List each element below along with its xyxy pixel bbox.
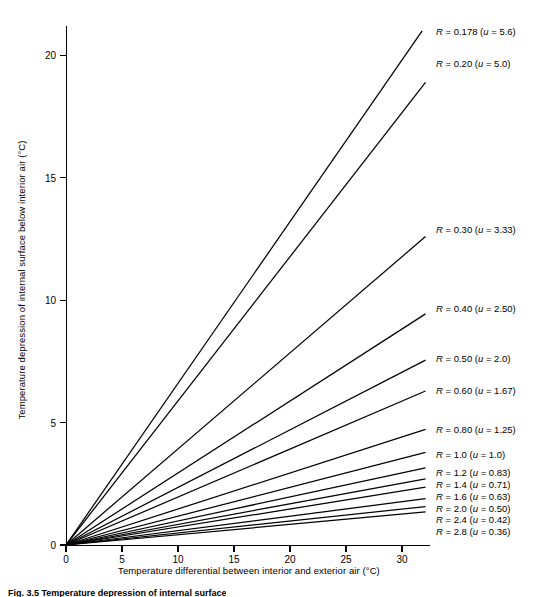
series-line [66,487,426,545]
figure-caption: Fig. 3.5 Temperature depression of inter… [8,588,226,597]
series-label: R = 2.0 (u = 0.50) [436,503,511,514]
series-label: R = 1.6 (u = 0.63) [436,491,511,502]
y-tick-label: 5 [50,417,56,428]
plot-area: 05101520 051015202530 [66,26,430,545]
series-label: R = 0.80 (u = 1.25) [436,424,516,435]
x-tick-mark [345,546,346,552]
x-tick-label: 0 [63,554,69,565]
x-tick-label: 25 [340,554,351,565]
series-label: R = 0.60 (u = 1.67) [436,385,516,396]
x-tick-mark [233,546,234,552]
series-lines [66,26,430,545]
series-line [66,314,426,545]
series-line [66,82,426,545]
series-label: R = 0.178 (u = 5.6) [436,26,516,37]
y-tick-label: 10 [45,295,56,306]
y-axis-title: Temperature depression of internal surfa… [16,20,27,540]
x-tick-mark [289,546,290,552]
series-line [66,31,422,545]
series-label: R = 0.20 (u = 5.0) [436,58,511,69]
series-label: R = 0.40 (u = 2.50) [436,303,516,314]
series-label: R = 0.50 (u = 2.0) [436,353,511,364]
x-tick-label: 5 [119,554,125,565]
series-label: R = 1.0 (u = 1.0) [436,449,505,460]
series-label: R = 0.30 (u = 3.33) [436,224,516,235]
x-tick-label: 10 [172,554,183,565]
y-tick-label: 15 [45,172,56,183]
x-axis-title: Temperature differential between interio… [66,565,432,576]
figure-container: Temperature depression of internal surfa… [0,0,533,597]
series-label: R = 2.4 (u = 0.42) [436,514,511,525]
x-tick-mark [177,546,178,552]
series-line [66,468,426,545]
series-label: R = 2.8 (u = 0.36) [436,526,511,537]
y-tick-label: 0 [50,540,56,551]
x-tick-mark [121,546,122,552]
series-label: R = 1.4 (u = 0.71) [436,479,511,490]
y-tick-label: 20 [45,50,56,61]
x-tick-mark [401,546,402,552]
x-tick-label: 15 [228,554,239,565]
series-line [66,429,426,545]
x-tick-mark [65,546,66,552]
x-tick-label: 20 [284,554,295,565]
series-label: R = 1.2 (u = 0.83) [436,467,511,478]
x-tick-label: 30 [396,554,407,565]
